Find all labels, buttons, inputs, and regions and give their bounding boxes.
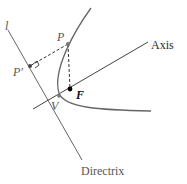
label-focus: F [76,89,84,101]
dashed-p-to-focus [68,44,70,89]
parabola-diagram: l P P' F V Axis Directrix [0,0,187,184]
point-p [66,42,70,46]
point-vertex [57,94,61,98]
directrix-line [8,30,82,160]
label-directrix: Directrix [81,165,124,177]
dashed-p-to-p-prime [30,44,68,66]
point-focus [68,87,73,92]
label-point-p: P [57,31,64,43]
parabola-curve [58,8,151,111]
point-p-prime [28,64,32,68]
label-axis: Axis [151,39,174,51]
diagram-canvas [0,0,187,184]
label-vertex: V [51,100,58,112]
label-point-p-prime: P' [13,66,23,78]
label-directrix-symbol: l [5,20,8,32]
right-angle-marker [33,61,39,68]
